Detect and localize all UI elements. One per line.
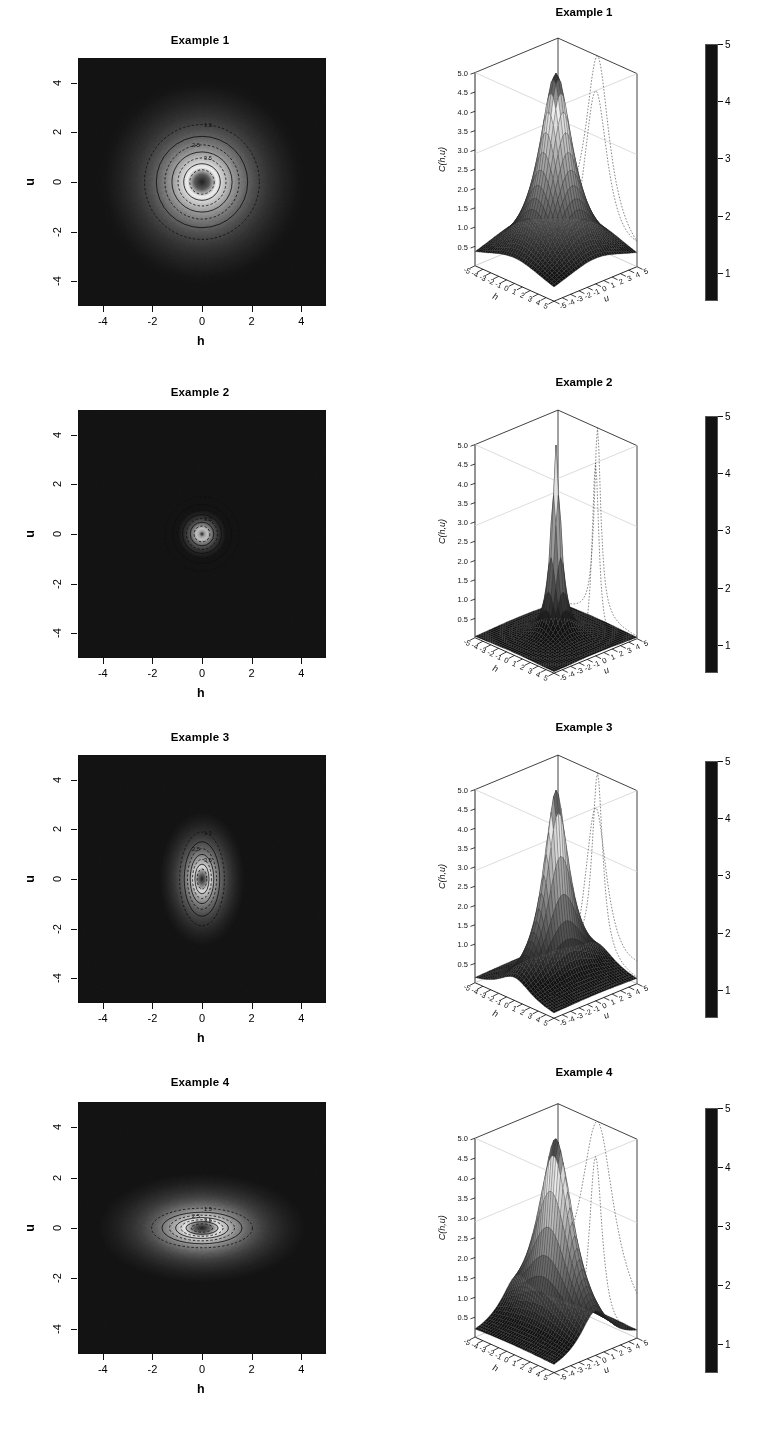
z-axis-name: C(h,u) [437, 864, 447, 889]
z-tick-label: 2.0 [458, 1254, 468, 1263]
u-axis-name: u [602, 1010, 611, 1021]
y-tick-mark [71, 829, 77, 830]
u-tick-label: 1 [609, 280, 616, 290]
y-tick-mark [71, 780, 77, 781]
x-tick-label: 0 [188, 315, 216, 327]
u-tick-label: 5 [642, 1338, 649, 1348]
u-tick-label: 2 [617, 1348, 624, 1358]
x-tick-label: -4 [89, 1363, 117, 1375]
h-axis-name: h [491, 291, 500, 302]
x-tick-mark [252, 1003, 253, 1009]
z-tick-label: 1.0 [458, 1294, 468, 1303]
colorbar: 12345 [705, 44, 745, 301]
u-axis-name: u [602, 293, 611, 304]
u-tick-label: 3 [626, 1345, 633, 1355]
colorbar-tick-mark [718, 44, 723, 45]
z-tick-label: 1.5 [458, 921, 468, 930]
z-tick-label: 4.0 [458, 1174, 468, 1183]
u-tick-label: 5 [642, 638, 649, 648]
colorbar-gradient [705, 761, 718, 1018]
colorbar-tick-label: 4 [725, 1161, 731, 1172]
y-tick-mark [71, 281, 77, 282]
colorbar-tick-mark [718, 933, 723, 934]
x-tick-mark [152, 306, 153, 312]
h-tick-label: 0 [503, 283, 510, 293]
h-tick-label: -1 [494, 996, 504, 1007]
colorbar-tick-label: 4 [725, 813, 731, 824]
colorbar-tick-mark [718, 645, 723, 646]
h-tick-label: 3 [526, 666, 533, 676]
u-tick-label: 1 [609, 1352, 616, 1362]
x-axis-name: h [197, 334, 205, 348]
z-tick-label: 4.5 [458, 805, 468, 814]
colorbar-tick-label: 5 [725, 1103, 731, 1114]
x-tick-mark [202, 306, 203, 312]
h-tick-label: 1 [511, 659, 518, 669]
perspective-title: Example 3 [434, 721, 734, 733]
x-tick-label: -2 [138, 1012, 166, 1024]
x-tick-label: -4 [89, 667, 117, 679]
y-tick-mark [71, 1127, 77, 1128]
contour-plot-area: 1.52.53.5 [78, 410, 326, 658]
h-tick-label: 2 [519, 1362, 526, 1372]
colorbar-tick-mark [718, 416, 723, 417]
h-tick-label: 0 [503, 1000, 510, 1010]
z-tick-label: 3.0 [458, 863, 468, 872]
y-tick-label: -2 [50, 1267, 64, 1289]
h-tick-label: 0 [503, 1355, 510, 1365]
y-tick-label: 2 [50, 818, 64, 840]
y-axis-name: u [22, 526, 38, 542]
y-tick-label: 2 [50, 473, 64, 495]
u-tick-label: 2 [617, 277, 624, 287]
colorbar: 12345 [705, 761, 745, 1018]
u-tick-label: 5 [642, 266, 649, 276]
u-tick-label: 2 [617, 994, 624, 1004]
y-tick-label: 4 [50, 1116, 64, 1138]
colorbar-tick-mark [718, 761, 723, 762]
y-tick-mark [71, 83, 77, 84]
x-tick-label: 4 [287, 667, 315, 679]
y-tick-mark [71, 1278, 77, 1279]
figure-row: Example 41.52.53.5-4-2024h-4-2024uExampl… [0, 1070, 768, 1439]
x-tick-mark [301, 1003, 302, 1009]
z-tick-label: 4.5 [458, 460, 468, 469]
u-axis-name: u [602, 1364, 611, 1375]
contour-plot-area: 1.52.53.5 [78, 755, 326, 1003]
u-tick-label: -1 [591, 1004, 601, 1015]
y-tick-mark [71, 879, 77, 880]
colorbar-tick-mark [718, 273, 723, 274]
z-tick-label: 4.0 [458, 108, 468, 117]
x-tick-mark [152, 1354, 153, 1360]
u-tick-label: 3 [626, 273, 633, 283]
x-tick-label: 4 [287, 1012, 315, 1024]
u-tick-label: 2 [617, 649, 624, 659]
z-axis-name: C(h,u) [437, 519, 447, 544]
h-tick-label: 2 [519, 290, 526, 300]
x-tick-label: 2 [238, 667, 266, 679]
colorbar-tick-label: 4 [725, 96, 731, 107]
colorbar-tick-label: 5 [725, 411, 731, 422]
covariance-surface [475, 790, 637, 1013]
x-tick-mark [252, 1354, 253, 1360]
y-tick-label: 4 [50, 769, 64, 791]
x-tick-label: 4 [287, 1363, 315, 1375]
contour-title: Example 2 [30, 386, 370, 398]
covariance-surface [475, 73, 637, 287]
h-tick-label: 1 [511, 287, 518, 297]
h-tick-label: 5 [542, 1018, 549, 1028]
u-tick-label: 1 [609, 997, 616, 1007]
y-tick-mark [71, 132, 77, 133]
z-tick-label: 1.0 [458, 223, 468, 232]
h-tick-label: 5 [542, 301, 549, 311]
y-tick-label: -4 [50, 1318, 64, 1340]
z-tick-label: 4.5 [458, 88, 468, 97]
u-tick-label: -1 [591, 1358, 601, 1369]
contour-panel-example-1: Example 11.52.53.5-4-2024h-4-2024u [0, 0, 400, 380]
x-tick-label: -4 [89, 315, 117, 327]
colorbar-gradient [705, 1108, 718, 1373]
covariance-surface [475, 445, 637, 672]
colorbar-tick-mark [718, 1344, 723, 1345]
y-tick-mark [71, 435, 77, 436]
u-tick-label: -2 [583, 1362, 593, 1373]
perspective-surface-plot: 0.51.01.52.02.53.03.54.04.55.0C(h,u)-5-4… [406, 739, 706, 1069]
